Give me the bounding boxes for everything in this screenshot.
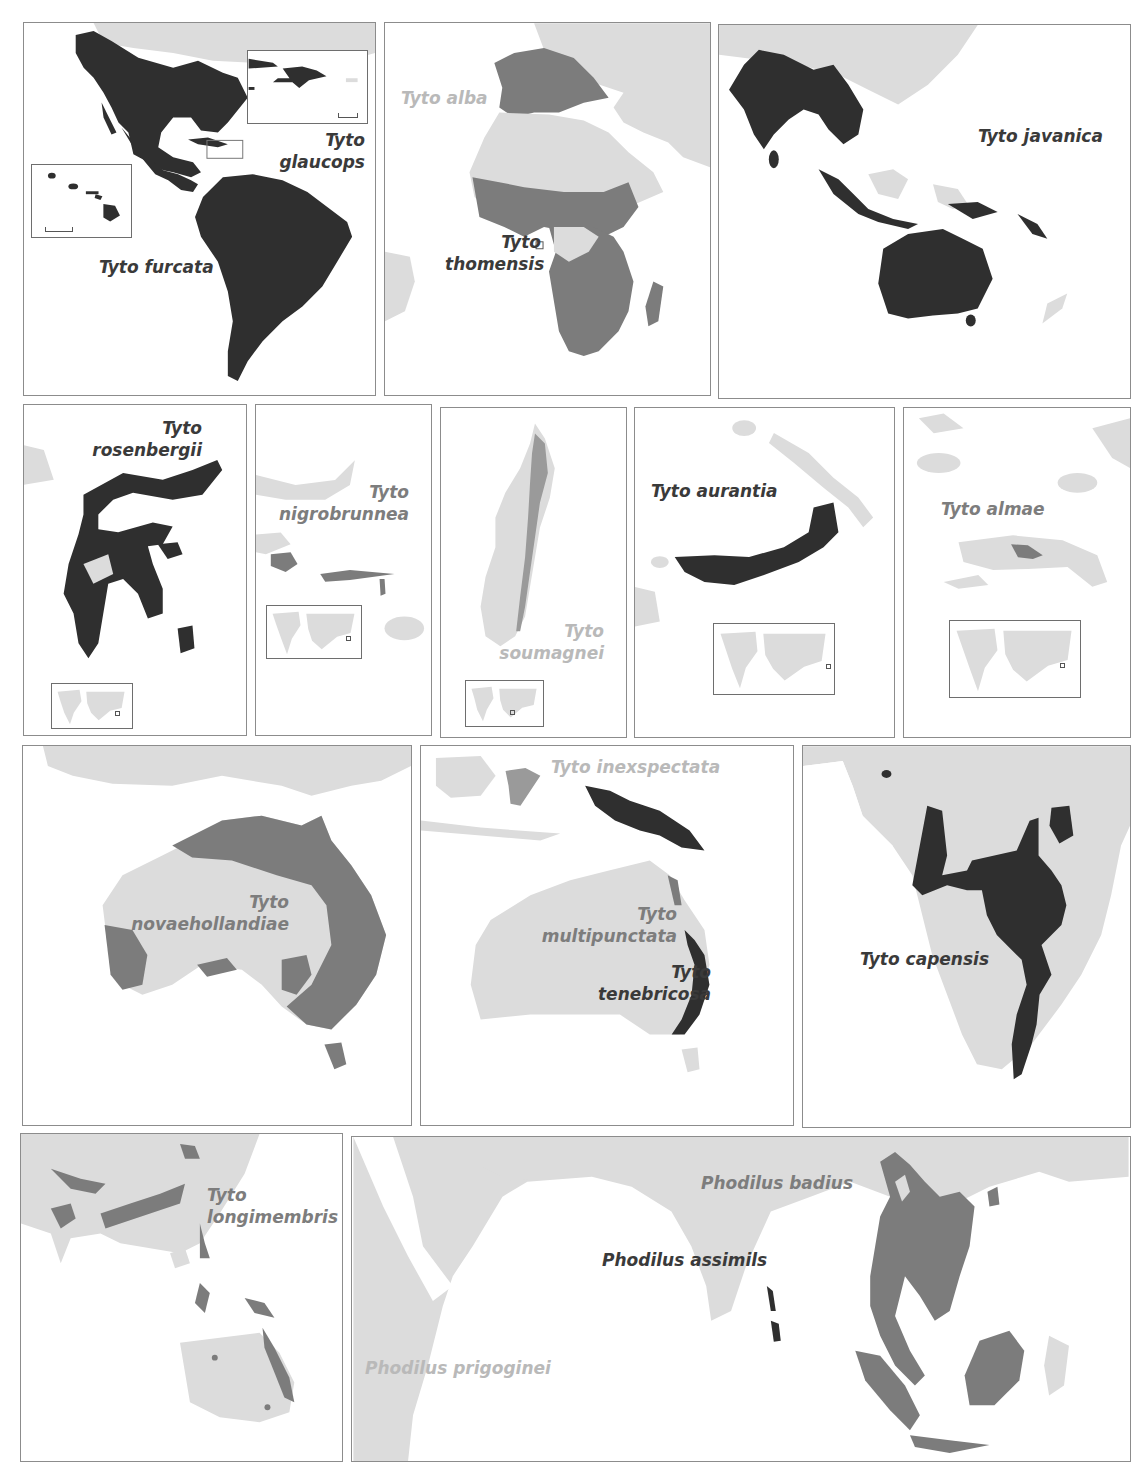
map-panel-americas: Tyto glaucops Tyto furcata <box>23 22 376 396</box>
label-tyto-soumagnei: Tyto soumagnei <box>499 620 604 664</box>
map-panel-new-britain: Tyto aurantia <box>634 407 895 738</box>
map-panel-indian-ocean: Phodilus badius Phodilus assimils Phodil… <box>351 1136 1131 1462</box>
label-phodilus-assimils: Phodilus assimils <box>602 1249 767 1271</box>
label-tyto-thomensis: Tyto thomensis <box>445 231 541 275</box>
label-tyto-capensis: Tyto capensis <box>860 948 989 970</box>
label-tyto-longimembris: Tyto longimembris <box>207 1184 338 1228</box>
label-tyto-alba: Tyto alba <box>401 87 488 109</box>
world-locator-inset <box>51 683 133 729</box>
map-panel-sula-islands: Tyto nigrobrunnea <box>255 404 432 736</box>
map-panel-south-asia-australia: Tyto javanica <box>718 24 1131 399</box>
label-tyto-multipunctata: Tyto multipunctata <box>542 903 677 947</box>
label-tyto-glaucops: Tyto glaucops <box>279 129 365 173</box>
map-panel-madagascar: Tyto soumagnei <box>440 407 627 738</box>
world-locator-inset <box>465 680 544 727</box>
hawaii-inset <box>31 164 132 238</box>
label-tyto-furcata: Tyto furcata <box>99 256 214 278</box>
label-tyto-aurantia: Tyto aurantia <box>651 480 778 502</box>
map-panel-sulawesi: Tyto rosenbergii <box>23 404 247 736</box>
hispaniola-inset <box>247 50 368 124</box>
sula-islands-map <box>256 405 431 735</box>
map-panel-australia-2: Tyto inexspectata Tyto multipunctata Tyt… <box>420 745 794 1126</box>
label-phodilus-prigoginei: Phodilus prigoginei <box>365 1357 551 1379</box>
map-panel-seram: Tyto almae <box>903 407 1131 738</box>
map-panel-africa-europe: Tyto alba Tyto thomensis <box>384 22 711 396</box>
label-tyto-inexspectata: Tyto inexspectata <box>551 756 720 778</box>
world-locator-inset <box>949 620 1081 698</box>
label-tyto-novaehollandiae: Tyto novaehollandiae <box>131 891 289 935</box>
map-panel-australia-1: Tyto novaehollandiae <box>22 745 412 1126</box>
map-panel-southern-africa: Tyto capensis <box>802 745 1131 1128</box>
south-asia-australia-map <box>719 25 1130 398</box>
africa-europe-map <box>385 23 710 395</box>
label-tyto-tenebricosa: Tyto tenebricosa <box>598 961 711 1005</box>
world-locator-inset <box>266 605 362 659</box>
label-tyto-javanica: Tyto javanica <box>978 125 1103 147</box>
label-tyto-nigrobrunnea: Tyto nigrobrunnea <box>279 481 409 525</box>
map-panel-asia-australasia: Tyto longimembris <box>20 1133 343 1462</box>
label-tyto-almae: Tyto almae <box>941 498 1045 520</box>
label-tyto-rosenbergii: Tyto rosenbergii <box>92 417 202 461</box>
label-phodilus-badius: Phodilus badius <box>701 1172 853 1194</box>
australia-1-map <box>23 746 411 1125</box>
world-locator-inset <box>713 623 835 695</box>
southern-africa-map <box>803 746 1130 1127</box>
